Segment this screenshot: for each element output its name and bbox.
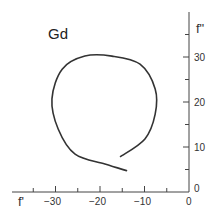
y-tick-label: 0	[194, 183, 200, 194]
x-tick-label: −30	[44, 196, 61, 207]
x-tick-label: −20	[89, 196, 106, 207]
plot-area	[0, 0, 213, 211]
x-tick-label: 0	[186, 196, 192, 207]
x-axis-label: f'	[18, 194, 24, 209]
data-curve	[52, 55, 157, 171]
chart: Gd f' f" −30 −20 −10 0 0 10 20 30	[0, 0, 213, 211]
y-tick-label: 10	[194, 142, 205, 153]
y-tick-label: 20	[194, 97, 205, 108]
y-tick-label: 30	[194, 52, 205, 63]
y-axis-label: f"	[196, 21, 204, 36]
chart-title: Gd	[48, 25, 68, 42]
x-tick-label: −10	[134, 196, 151, 207]
